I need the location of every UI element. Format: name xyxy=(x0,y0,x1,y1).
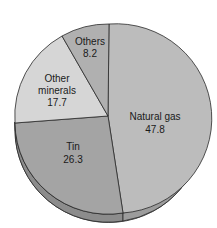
label-others-name: Others xyxy=(75,36,105,47)
label-natural-gas-value: 47.8 xyxy=(145,124,165,135)
label-other-minerals-line2: minerals xyxy=(38,85,76,96)
label-tin-name: Tin xyxy=(66,141,80,152)
label-tin-value: 26.3 xyxy=(63,154,83,165)
label-others-value: 8.2 xyxy=(83,48,97,59)
pie-chart: Others 8.2 Other minerals 17.7 Natural g… xyxy=(0,0,217,228)
slice-tin xyxy=(15,116,123,214)
label-other-minerals-value: 17.7 xyxy=(47,97,67,108)
label-natural-gas-name: Natural gas xyxy=(129,111,180,122)
label-other-minerals-line1: Other xyxy=(44,73,70,84)
